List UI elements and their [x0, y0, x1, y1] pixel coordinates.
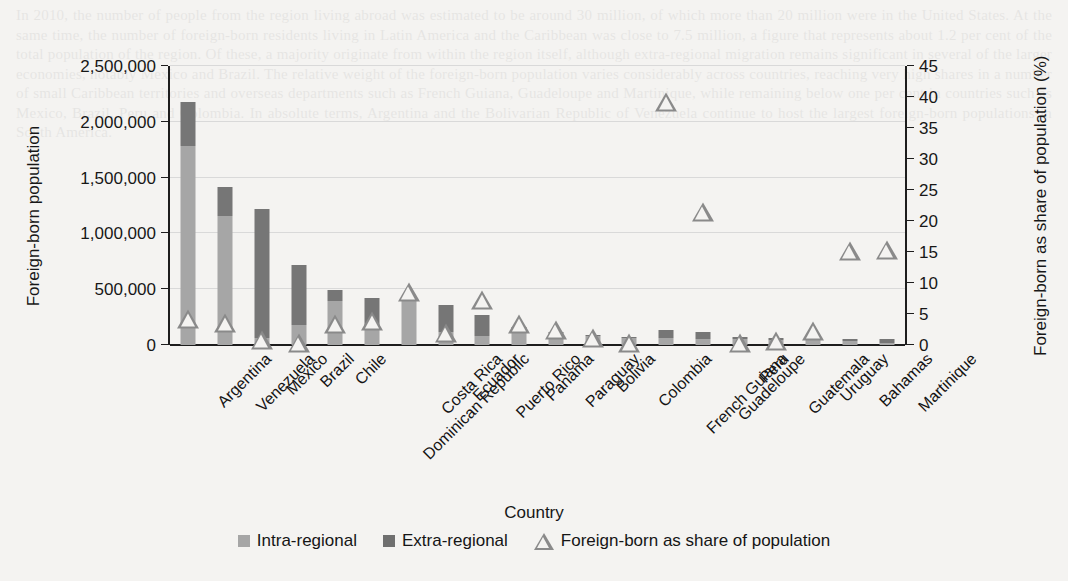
bar-segment-intra-regional: [512, 333, 527, 345]
bar-segment-extra-regional: [659, 330, 674, 338]
share-marker-triangle: [692, 202, 714, 221]
stacked-bar: [842, 339, 857, 345]
triangle-fill: [842, 245, 856, 258]
y-axis-left-tick-label: 2,000,000: [80, 114, 156, 131]
y-axis-right-tick-label: 35: [919, 120, 938, 137]
y-axis-right-tick: [907, 313, 914, 314]
y-axis-right-tick-label: 40: [919, 89, 938, 106]
bar-column: [685, 66, 722, 345]
legend-item[interactable]: Intra-regional: [238, 531, 357, 551]
triangle-fill: [254, 335, 268, 348]
y-axis-right-tick-label: 5: [919, 306, 928, 323]
legend-item[interactable]: Foreign-born as share of population: [534, 531, 830, 551]
y-axis-left-tick-label: 2,500,000: [80, 58, 156, 75]
share-marker-triangle: [214, 314, 236, 333]
triangle-fill: [879, 245, 893, 258]
y-axis-right-tick: [907, 65, 914, 66]
triangle-fill: [769, 336, 783, 349]
triangle-fill: [181, 313, 195, 326]
triangle-fill: [328, 318, 342, 331]
y-axis-left-tick: [161, 65, 168, 66]
y-axis-left-tick-label: 0: [147, 337, 156, 354]
bar-column: [538, 66, 575, 345]
triangle-fill: [622, 337, 636, 350]
y-axis-right-tick: [907, 282, 914, 283]
y-axis-left-tick-label: 1,000,000: [80, 225, 156, 242]
share-marker-triangle: [545, 321, 567, 340]
triangle-fill: [365, 315, 379, 328]
y-axis-right-tick-label: 45: [919, 58, 938, 75]
bar-column: [391, 66, 428, 345]
share-marker-triangle: [435, 324, 457, 343]
y-axis-left-tick: [161, 232, 168, 233]
bar-segment-extra-regional: [879, 339, 894, 343]
bar-column: [611, 66, 648, 345]
y-axis-right-tick-label: 25: [919, 182, 938, 199]
x-axis-category-label: Chile: [352, 350, 391, 389]
bar-segment-intra-regional: [659, 338, 674, 345]
y-axis-right-tick-label: 15: [919, 244, 938, 261]
chart-figure: Foreign-born population Foreign-born as …: [0, 0, 1068, 581]
y-axis-left-tick-label: 1,500,000: [80, 170, 156, 187]
bar-segment-intra-regional: [401, 300, 416, 345]
bar-column: [170, 66, 207, 345]
bar-segment-intra-regional: [695, 339, 710, 345]
bar-segment-intra-regional: [842, 341, 857, 345]
share-marker-triangle: [876, 241, 898, 260]
triangle-fill: [218, 318, 232, 331]
triangle-fill: [401, 286, 415, 299]
y-axis-left-tick-label: 500,000: [95, 281, 156, 298]
y-axis-right-tick: [907, 251, 914, 252]
triangle-fill: [659, 96, 673, 109]
share-marker-triangle: [839, 241, 861, 260]
share-marker-triangle: [471, 291, 493, 310]
stacked-bar: [254, 209, 269, 345]
stacked-bar: [659, 330, 674, 345]
y-axis-right-tick-label: 30: [919, 151, 938, 168]
chart-legend: Intra-regionalExtra-regionalForeign-born…: [0, 531, 1068, 551]
x-axis-category-label: Colombia: [655, 350, 716, 411]
share-marker-triangle: [398, 282, 420, 301]
bar-column: [721, 66, 758, 345]
bar-segment-extra-regional: [695, 332, 710, 339]
bar-column: [464, 66, 501, 345]
bar-column: [868, 66, 905, 345]
bar-segment-extra-regional: [254, 209, 269, 338]
bar-segment-extra-regional: [181, 102, 196, 147]
share-marker-triangle: [729, 334, 751, 353]
triangle-fill: [695, 206, 709, 219]
x-axis-title: Country: [0, 503, 1068, 523]
y-axis-left-title: Foreign-born population: [24, 86, 44, 346]
y-axis-right-tick: [907, 220, 914, 221]
y-axis-right-tick: [907, 127, 914, 128]
stacked-bar: [879, 339, 894, 345]
triangle-fill: [512, 318, 526, 331]
bar-segment-intra-regional: [879, 343, 894, 345]
stacked-bar: [695, 332, 710, 345]
legend-swatch-icon: [238, 535, 250, 547]
bar-segment-extra-regional: [218, 187, 233, 216]
triangle-fill: [585, 333, 599, 346]
share-marker-triangle: [655, 92, 677, 111]
y-axis-right-line: [905, 66, 907, 345]
bar-column: [574, 66, 611, 345]
triangle-fill: [438, 328, 452, 341]
y-axis-right-tick: [907, 344, 914, 345]
bar-column: [832, 66, 869, 345]
bar-column: [354, 66, 391, 345]
y-axis-left-tick: [161, 121, 168, 122]
triangle-fill: [475, 295, 489, 308]
triangle-fill: [291, 338, 305, 351]
share-marker-triangle: [177, 309, 199, 328]
share-marker-triangle: [765, 332, 787, 351]
bar-segment-extra-regional: [328, 290, 343, 301]
share-marker-triangle: [802, 322, 824, 341]
share-marker-triangle: [582, 329, 604, 348]
bar-segment-extra-regional: [291, 265, 306, 325]
bar-column: [501, 66, 538, 345]
bar-column: [758, 66, 795, 345]
y-axis-left-tick: [161, 177, 168, 178]
share-marker-triangle: [251, 331, 273, 350]
legend-item[interactable]: Extra-regional: [383, 531, 508, 551]
legend-swatch-icon: [383, 535, 395, 547]
